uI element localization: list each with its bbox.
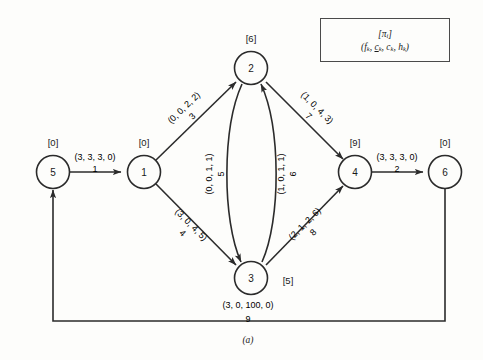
arc-9-index: 9 — [222, 314, 273, 324]
arc-8-label: (2, 1, 2, 6) 8 — [288, 217, 329, 239]
legend-box: [πi] (fk, ck, ck, hk) — [320, 18, 450, 62]
arc-6-index: 6 — [288, 153, 298, 194]
node-6-potential: [0] — [440, 138, 451, 148]
node-5-potential: [0] — [48, 138, 59, 148]
arc-3-label: (0, 0, 2, 2) 3 — [167, 101, 208, 123]
legend-potential-notation: [πi] — [378, 29, 392, 39]
arc-6-label: (1, 0, 1, 1) 6 — [266, 163, 307, 185]
arc-9-tuple: (3, 0, 100, 0) — [222, 300, 273, 310]
arc-1-tuple: (3, 3, 3, 0) — [74, 152, 115, 162]
arc-5-index: 5 — [216, 153, 226, 194]
node-4-potential: [9] — [350, 138, 361, 148]
network-flow-figure: 5 1 2 3 4 6 [0] [0] [6] [5] [9] [0] (3, … — [0, 0, 483, 360]
node-3-potential: [5] — [283, 276, 294, 286]
arc-6-tuple: (1, 0, 1, 1) — [276, 153, 286, 194]
node-6-label: 6 — [442, 168, 448, 178]
arc-7-label: (1, 0, 4, 3) 7 — [292, 101, 333, 123]
node-2-label: 2 — [248, 64, 254, 74]
arc-2-tuple: (3, 3, 3, 0) — [376, 152, 417, 162]
arc-1-label: (3, 3, 3, 0) 1 — [74, 152, 115, 174]
figure-caption: (a) — [242, 336, 253, 346]
arc-2-label: (3, 3, 3, 0) 2 — [376, 152, 417, 174]
node-5-label: 5 — [50, 168, 56, 178]
arc-1-index: 1 — [74, 164, 115, 174]
node-1-label: 1 — [141, 168, 147, 178]
node-2-potential: [6] — [246, 34, 257, 44]
arc-5-label: (0, 0, 1, 1) 5 — [194, 163, 235, 185]
node-1-potential: [0] — [139, 138, 150, 148]
arc-5-tuple: (0, 0, 1, 1) — [204, 153, 214, 194]
arc-9-label: (3, 0, 100, 0) 9 — [222, 300, 273, 324]
legend-arc-notation: (fk, ck, ck, hk) — [361, 42, 409, 52]
node-4-label: 4 — [352, 168, 358, 178]
arc-4-label: (3, 0, 4, 5) 4 — [166, 218, 207, 240]
node-3-label: 3 — [248, 274, 254, 284]
arc-2-index: 2 — [376, 164, 417, 174]
